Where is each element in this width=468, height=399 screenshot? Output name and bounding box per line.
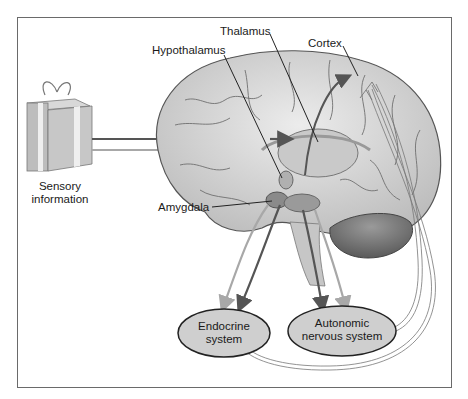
cortex-label: Cortex: [308, 37, 342, 50]
endocrine-label-line2: system: [178, 333, 270, 346]
hypothalamus-region: [279, 171, 293, 189]
sensory-label-line1: Sensory: [25, 180, 95, 193]
autonomic-label-line1: Autonomic: [288, 317, 396, 330]
thalamus-label: Thalamus: [220, 25, 271, 38]
brain-illustration: [157, 51, 441, 286]
autonomic-label-line2: nervous system: [288, 330, 396, 343]
gift-box-icon: [27, 82, 92, 171]
sensory-information-label: Sensory information: [25, 180, 95, 206]
autonomic-nervous-system-label: Autonomic nervous system: [288, 317, 396, 343]
endocrine-system-label: Endocrine system: [178, 320, 270, 346]
sensory-label-line2: information: [25, 193, 95, 206]
endocrine-label-line1: Endocrine: [178, 320, 270, 333]
amygdala-label: Amygdala: [158, 201, 209, 214]
hypothalamus-label: Hypothalamus: [152, 44, 226, 57]
